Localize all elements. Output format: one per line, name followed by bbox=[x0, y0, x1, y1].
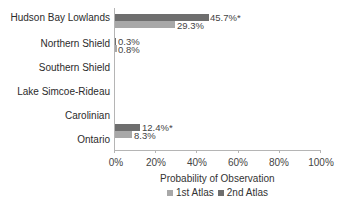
legend-swatch-1st-atlas-icon bbox=[167, 190, 173, 196]
category-label-carolinian: Carolinian bbox=[65, 110, 110, 122]
legend-swatch-2nd-atlas-icon bbox=[218, 190, 224, 196]
category-label-ontario: Ontario bbox=[77, 134, 110, 146]
legend-item-1st-atlas: 1st Atlas bbox=[167, 187, 214, 198]
legend-label-2nd-atlas: 2nd Atlas bbox=[227, 187, 268, 198]
x-tick bbox=[155, 150, 156, 153]
x-tick-label: 0% bbox=[109, 157, 123, 168]
legend-label-1st-atlas: 1st Atlas bbox=[176, 187, 214, 198]
x-axis-title: Probability of Observation bbox=[160, 173, 275, 184]
category-label-hudson-bay-lowlands: Hudson Bay Lowlands bbox=[10, 12, 110, 24]
bar-chart: Hudson Bay Lowlands Northern Shield Sout… bbox=[0, 0, 351, 205]
x-tick bbox=[196, 150, 197, 153]
legend: 1st Atlas 2nd Atlas bbox=[167, 187, 268, 198]
x-tick bbox=[114, 150, 115, 153]
x-tick-label: 20% bbox=[146, 157, 166, 168]
value-label-ontario-1st: 8.3% bbox=[134, 131, 156, 140]
x-tick-label: 80% bbox=[269, 157, 289, 168]
x-tick-label: 100% bbox=[308, 157, 334, 168]
category-label-lake-simcoe-rideau: Lake Simcoe-Rideau bbox=[17, 86, 110, 98]
bar-hudson-bay-1st-atlas bbox=[115, 21, 175, 28]
bar-ontario-1st-atlas bbox=[115, 131, 132, 138]
x-tick bbox=[279, 150, 280, 153]
bar-northern-shield-2nd-atlas bbox=[115, 38, 116, 45]
x-tick bbox=[238, 150, 239, 153]
value-label-hudson-bay-1st: 29.3% bbox=[177, 21, 204, 30]
x-tick bbox=[320, 150, 321, 153]
value-label-hudson-bay-2nd: 45.7%* bbox=[210, 13, 241, 22]
x-tick-label: 60% bbox=[228, 157, 248, 168]
x-axis-line bbox=[114, 150, 321, 151]
legend-item-2nd-atlas: 2nd Atlas bbox=[218, 187, 268, 198]
category-label-southern-shield: Southern Shield bbox=[39, 62, 110, 74]
bar-northern-shield-1st-atlas bbox=[115, 45, 117, 52]
x-tick-label: 40% bbox=[187, 157, 207, 168]
category-label-northern-shield: Northern Shield bbox=[41, 38, 110, 50]
value-label-northern-shield-1st: 0.8% bbox=[118, 45, 140, 54]
